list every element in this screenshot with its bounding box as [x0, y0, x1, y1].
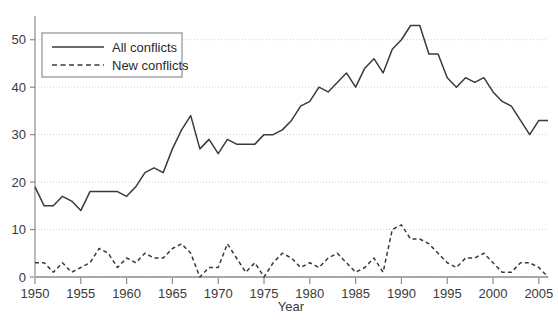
- legend-label-all-conflicts: All conflicts: [112, 40, 178, 55]
- y-tick-label-50: 50: [12, 32, 26, 47]
- x-tick-label-1965: 1965: [158, 286, 187, 301]
- x-tick-label-1955: 1955: [66, 286, 95, 301]
- x-tick-label-2005: 2005: [524, 286, 553, 301]
- x-tick-label-1975: 1975: [250, 286, 279, 301]
- x-tick-label-2000: 2000: [479, 286, 508, 301]
- legend-label-new-conflicts: New conflicts: [112, 58, 189, 73]
- chart-container: 01020304050 1950195519601965197019751980…: [0, 0, 558, 321]
- x-tick-label-1970: 1970: [204, 286, 233, 301]
- x-tick-label-1995: 1995: [433, 286, 462, 301]
- y-tick-label-10: 10: [12, 222, 26, 237]
- x-tick-label-1960: 1960: [112, 286, 141, 301]
- legend: All conflicts New conflicts: [42, 33, 189, 77]
- x-tick-label-1950: 1950: [21, 286, 50, 301]
- y-tick-label-40: 40: [12, 80, 26, 95]
- x-tick-label-1990: 1990: [387, 286, 416, 301]
- x-axis-title: Year: [278, 299, 305, 314]
- y-tick-label-0: 0: [19, 270, 26, 285]
- y-tick-label-20: 20: [12, 175, 26, 190]
- y-tick-label-30: 30: [12, 127, 26, 142]
- x-tick-label-1985: 1985: [341, 286, 370, 301]
- line-chart: 01020304050 1950195519601965197019751980…: [0, 0, 558, 321]
